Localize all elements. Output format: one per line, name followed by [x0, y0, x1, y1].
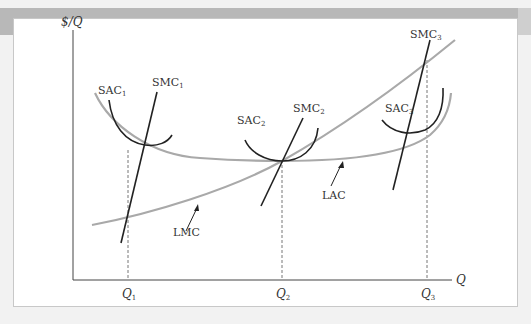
lac-arrowhead-icon: [338, 161, 344, 168]
sac2-label: SAC2: [237, 114, 265, 128]
lac-label: LAC: [322, 189, 346, 202]
smc1-curve: [121, 92, 157, 243]
q1-label: Q1: [122, 287, 136, 302]
lmc-label: LMC: [173, 226, 200, 239]
lmc-arrowhead-icon: [194, 204, 199, 211]
q3-label: Q3: [421, 287, 435, 302]
smc2-label: SMC2: [293, 102, 325, 116]
sac1-label: SAC1: [98, 84, 126, 98]
q2-label: Q2: [276, 287, 290, 302]
sac3-label: SAC3: [385, 102, 413, 116]
sac2-curve: [245, 128, 318, 161]
smc1-label: SMC1: [152, 76, 184, 90]
y-axis-label: $/Q: [61, 15, 83, 29]
x-axis-label: Q: [456, 273, 466, 287]
smc3-label: SMC3: [410, 28, 442, 42]
lac-pointer-arrow: [331, 165, 341, 186]
cost-curves-diagram: $/Q Q SAC1 SMC1 SAC2 SMC2 SAC3 SMC3 LAC …: [0, 0, 531, 324]
